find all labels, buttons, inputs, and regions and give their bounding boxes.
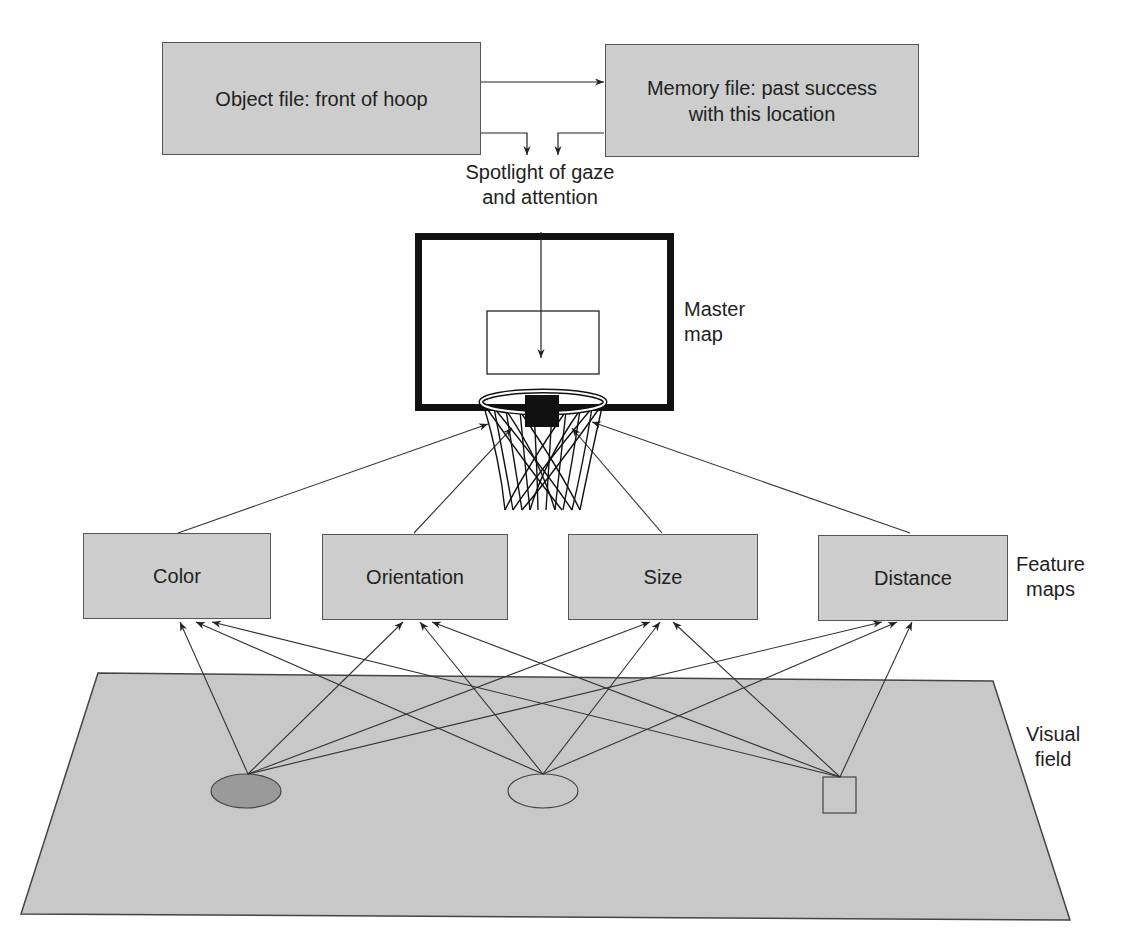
feature-box-size: Size (568, 534, 758, 620)
visual-field-line1: Visual (1026, 722, 1080, 747)
backboard-master-map (419, 237, 671, 408)
feature-label-distance: Distance (874, 565, 952, 591)
feature-box-distance: Distance (818, 535, 1008, 621)
dark-ellipse-stimulus (211, 774, 281, 808)
feature-maps-label: Feature maps (1016, 552, 1085, 602)
feature-label-orientation: Orientation (366, 564, 464, 590)
feature-label-color: Color (153, 563, 201, 589)
feature-maps-line1: Feature (1016, 552, 1085, 577)
feature-label-size: Size (644, 564, 683, 590)
feature-maps-line2: maps (1016, 577, 1085, 602)
memory-file-box: Memory file: past success with this loca… (605, 44, 919, 157)
object-file-text: Object file: front of hoop (215, 86, 427, 112)
memory-file-line2: with this location (689, 101, 836, 127)
object-file-box: Object file: front of hoop (162, 42, 481, 155)
light-ellipse-stimulus (508, 774, 578, 808)
spotlight-label: Spotlight of gaze and attention (440, 160, 640, 210)
spotlight-focus-square (525, 395, 559, 427)
master-map-line2: map (684, 322, 745, 347)
feature-box-color: Color (83, 533, 271, 619)
memory-file-line1: Memory file: past success (647, 75, 877, 101)
feature-box-orientation: Orientation (322, 534, 508, 620)
visual-field-line2: field (1026, 747, 1080, 772)
spotlight-line2: and attention (440, 185, 640, 210)
master-map-label: Master map (684, 297, 745, 347)
visual-field-label: Visual field (1026, 722, 1080, 772)
master-map-line1: Master (684, 297, 745, 322)
spotlight-line1: Spotlight of gaze (440, 160, 640, 185)
square-stimulus (823, 777, 856, 813)
